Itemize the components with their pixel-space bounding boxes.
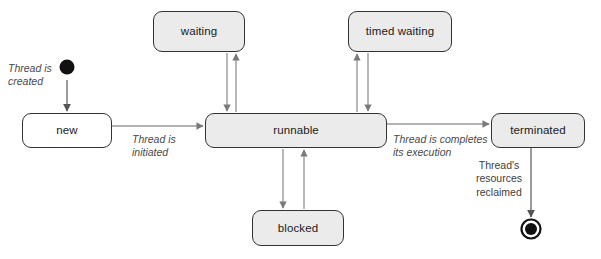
state-node-new[interactable]: new: [22, 113, 112, 148]
edge-label-threads-resources-reclaimed: Thread's resources reclaimed: [470, 159, 528, 199]
state-label-blocked: blocked: [278, 222, 318, 235]
state-label-terminated: terminated: [510, 124, 565, 137]
state-label-waiting: waiting: [181, 25, 218, 38]
state-node-timed-waiting[interactable]: timed waiting: [348, 11, 452, 52]
state-node-runnable[interactable]: runnable: [205, 113, 387, 148]
state-node-terminated[interactable]: terminated: [491, 113, 585, 148]
state-label-new: new: [56, 124, 77, 137]
state-node-waiting[interactable]: waiting: [153, 11, 245, 52]
edge-label-thread-completes-execution: Thread is completes its execution: [393, 133, 503, 160]
edge-label-thread-is-initiated: Thread is initiated: [132, 133, 202, 160]
final-state-inner-dot: [525, 223, 537, 235]
state-node-blocked[interactable]: blocked: [252, 210, 344, 246]
state-diagram: new waiting runnable timed waiting block…: [0, 0, 601, 259]
state-label-runnable: runnable: [273, 124, 319, 137]
state-label-timed-waiting: timed waiting: [366, 25, 434, 38]
edge-label-thread-is-created: Thread is created: [8, 62, 70, 89]
